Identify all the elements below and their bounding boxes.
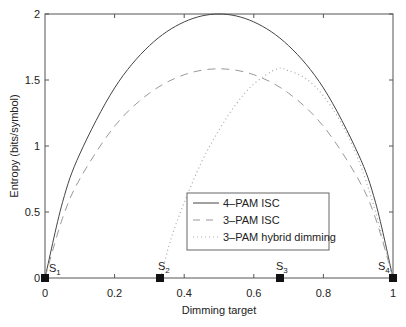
label-s3: S3 bbox=[276, 260, 288, 275]
label-s1: S1 bbox=[49, 262, 61, 277]
x-tick-0: 0 bbox=[42, 287, 48, 299]
x-axis-label: Dimming target bbox=[182, 304, 257, 316]
y-tick-0.5: 0.5 bbox=[25, 206, 40, 218]
x-tick-0.6: 0.6 bbox=[246, 287, 261, 299]
y-tick-1: 1 bbox=[34, 140, 40, 152]
marker-s2 bbox=[156, 274, 164, 282]
x-tick-0.4: 0.4 bbox=[177, 287, 192, 299]
legend: 4–PAM ISC 3–PAM ISC 3–PAM hybrid dimming bbox=[187, 193, 336, 250]
entropy-chart: 0 0.5 1 1.5 2 0 0.2 0.4 0.6 0.8 1 Dimmin… bbox=[0, 0, 406, 327]
legend-item-3pam-isc: 3–PAM ISC bbox=[223, 214, 280, 226]
x-tick-1: 1 bbox=[390, 287, 396, 299]
legend-item-4pam-isc: 4–PAM ISC bbox=[223, 197, 280, 209]
y-tick-2: 2 bbox=[34, 8, 40, 20]
dimming-points: S1 S2 S3 S4 bbox=[41, 260, 397, 282]
marker-s3 bbox=[276, 274, 284, 282]
marker-s1 bbox=[41, 274, 49, 282]
y-tick-1.5: 1.5 bbox=[25, 74, 40, 86]
y-tick-0: 0 bbox=[34, 272, 40, 284]
x-tick-0.2: 0.2 bbox=[107, 287, 122, 299]
y-axis-label: Entropy (bits/symbol) bbox=[8, 94, 20, 197]
label-s2: S2 bbox=[158, 260, 170, 275]
x-tick-0.8: 0.8 bbox=[316, 287, 331, 299]
marker-s4 bbox=[389, 274, 397, 282]
legend-item-3pam-hybrid: 3–PAM hybrid dimming bbox=[223, 231, 336, 243]
